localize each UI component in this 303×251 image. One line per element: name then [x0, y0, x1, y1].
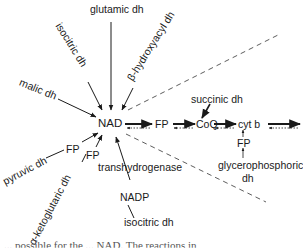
label-isocitric-dh-bottom: isocitric dh	[124, 217, 174, 228]
node-coq: CoQ	[196, 119, 218, 130]
label-fp-pyruvic: FP	[66, 144, 79, 155]
node-nad: NAD	[98, 118, 122, 130]
label-fp-keto: FP	[86, 150, 99, 161]
label-glutamic-dh: glutamic dh	[90, 4, 144, 15]
arrow-succinic-coq	[202, 104, 210, 118]
arrow-keto-fp-nad	[96, 135, 102, 147]
line-pyruvic-fp	[46, 150, 64, 158]
arrow-isocitric-top	[88, 82, 102, 110]
node-cyt-b: cyt b	[238, 119, 260, 130]
node-fp: FP	[155, 119, 168, 130]
arrow-malic	[58, 99, 96, 117]
arrow-transhydrogenase	[116, 137, 130, 180]
arrow-pyruvic-fp-nad	[82, 133, 98, 142]
label-glycerophosphoric: glycerophosphoric	[218, 160, 303, 171]
label-nadp: NADP	[120, 192, 149, 203]
label-glycerophosphoric-dh: dh	[242, 173, 254, 184]
nad-pathway-diagram: glutamic dh isocitric dh β-hydroxyacyl d…	[0, 0, 303, 251]
arrow-hydroxyacyl	[122, 88, 133, 110]
label-transhydrogenase: transhydrogenase	[98, 162, 182, 173]
label-succinic-dh: succinic dh	[191, 94, 243, 105]
label-fp-glycero: FP	[237, 138, 250, 149]
